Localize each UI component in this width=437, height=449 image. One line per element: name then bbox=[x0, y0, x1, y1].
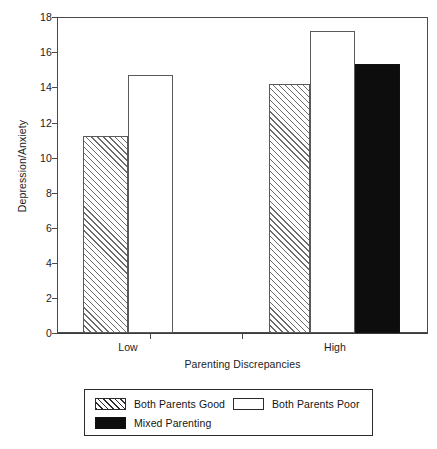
legend-item-both-parents-good: Both Parents Good bbox=[95, 398, 225, 410]
legend: Both Parents Good Both Parents Poor Mixe… bbox=[84, 389, 373, 436]
y-tick-label-18: 18 bbox=[0, 12, 52, 22]
bar-high-mixed-parenting bbox=[355, 64, 400, 333]
x-tick-label-low: Low bbox=[83, 341, 173, 353]
chart-figure: Depression/Anxiety 18 16 14 12 10 8 6 4 … bbox=[0, 0, 437, 449]
bar-low-both-parents-good bbox=[83, 136, 128, 333]
bar-high-both-parents-poor bbox=[310, 31, 355, 333]
legend-swatch-hatch-icon bbox=[95, 398, 126, 410]
y-axis-title: Depression/Anxiety bbox=[16, 96, 28, 236]
legend-item-both-parents-poor: Both Parents Poor bbox=[233, 398, 360, 410]
legend-swatch-white-icon bbox=[233, 398, 264, 410]
y-tick-label-0: 0 bbox=[0, 328, 52, 338]
x-axis-title: Parenting Discrepancies bbox=[57, 358, 428, 370]
y-tick-label-2: 2 bbox=[0, 293, 52, 303]
bar-low-both-parents-poor bbox=[128, 75, 173, 333]
x-tick-label-high: High bbox=[290, 341, 380, 353]
y-tick-label-16: 16 bbox=[0, 47, 52, 57]
x-tick-mark-left bbox=[150, 333, 151, 339]
x-tick-mark-mid bbox=[242, 333, 243, 339]
y-tick-label-12: 12 bbox=[0, 118, 52, 128]
y-tick-label-8: 8 bbox=[0, 188, 52, 198]
legend-item-mixed-parenting: Mixed Parenting bbox=[95, 417, 211, 429]
y-tick-label-10: 10 bbox=[0, 153, 52, 163]
legend-label-mixed-parenting: Mixed Parenting bbox=[134, 417, 211, 429]
y-tick-label-6: 6 bbox=[0, 223, 52, 233]
legend-label-both-parents-poor: Both Parents Poor bbox=[272, 398, 360, 410]
legend-swatch-black-icon bbox=[95, 417, 126, 429]
y-tick-label-14: 14 bbox=[0, 82, 52, 92]
bar-high-both-parents-good bbox=[269, 84, 310, 333]
legend-label-both-parents-good: Both Parents Good bbox=[134, 398, 225, 410]
y-tick-label-4: 4 bbox=[0, 258, 52, 268]
